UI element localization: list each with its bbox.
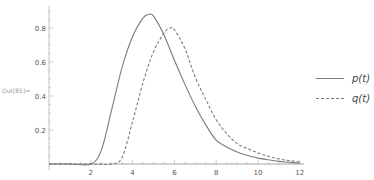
y-tick-label: 0.4 bbox=[35, 93, 47, 101]
y-tick-label: 0.6 bbox=[35, 59, 47, 67]
x-axis: 24681012 bbox=[49, 160, 304, 177]
y-tick-label: 0.8 bbox=[35, 25, 46, 33]
x-tick-label: 4 bbox=[130, 169, 135, 177]
x-tick-label: 2 bbox=[89, 169, 93, 177]
series-line-q bbox=[49, 27, 300, 164]
series-layer bbox=[49, 14, 300, 165]
y-axis: 0.20.40.60.8 bbox=[35, 6, 53, 170]
x-tick-label: 12 bbox=[295, 169, 304, 177]
legend-label-p: p(t) bbox=[352, 73, 370, 84]
legend-item-q: q(t) bbox=[316, 88, 370, 108]
x-tick-label: 10 bbox=[254, 169, 263, 177]
legend-item-p: p(t) bbox=[316, 68, 370, 88]
y-tick-label: 0.2 bbox=[35, 127, 46, 135]
x-tick-label: 6 bbox=[172, 169, 177, 177]
legend-label-q: q(t) bbox=[352, 93, 370, 104]
dashed-line-swatch-icon bbox=[316, 98, 344, 99]
series-line-p bbox=[49, 14, 300, 165]
x-tick-label: 8 bbox=[214, 169, 218, 177]
legend: p(t) q(t) bbox=[316, 68, 370, 108]
solid-line-swatch-icon bbox=[316, 78, 344, 79]
